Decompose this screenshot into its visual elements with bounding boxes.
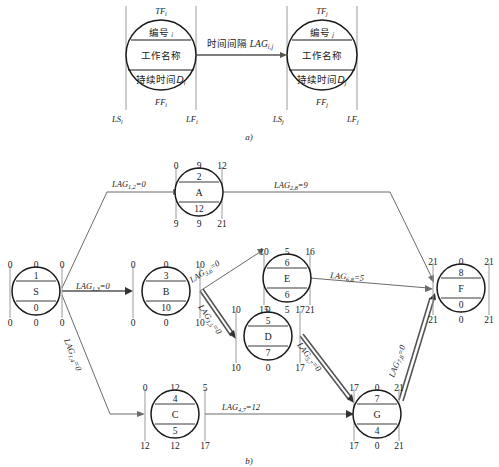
node-S-duration: 0 [34, 303, 39, 313]
schematic-ls-j-label: LSj [272, 114, 284, 125]
lag-label-2-8: LAG2,8=9 [273, 180, 309, 191]
node-E-name: E [284, 273, 290, 284]
network-node-G[interactable]: 17 0 21 7 G 4 17 0 21 [349, 383, 404, 451]
node-A-top-left: 0 [174, 161, 179, 171]
node-G-number: 7 [375, 394, 380, 404]
node-B-top-mid: 0 [164, 260, 169, 270]
panel-b-network: 0 0 0 1 S 0 0 0 0 0 9 12 2 A 12 9 9 21 [8, 161, 494, 466]
node-C-number: 4 [173, 394, 178, 404]
schematic-duration-i: 持续时间Di [136, 74, 185, 86]
node-G-top-right: 21 [394, 383, 404, 393]
lag-label-4-7: LAG4,7=12 [221, 402, 261, 413]
lag-label-1-2: LAG1,2=0 [111, 179, 147, 190]
node-D-bottom-right: 17 [295, 363, 305, 373]
node-S-top-mid: 0 [34, 260, 39, 270]
node-C-bottom-mid: 12 [170, 441, 180, 451]
edge-A-F [222, 192, 432, 278]
network-node-C[interactable]: 0 12 5 4 C 5 12 12 17 [140, 383, 210, 451]
node-A-name: A [195, 187, 203, 198]
node-G-bottom-mid: 0 [375, 441, 380, 451]
node-E-bottom-mid: 5 [285, 305, 290, 315]
node-E-top-right: 16 [305, 247, 315, 257]
node-F-number: 8 [459, 268, 464, 278]
node-B-bottom-left: 0 [131, 318, 136, 328]
node-E-bottom-right: 21 [305, 305, 315, 315]
node-D-number: 5 [266, 316, 271, 326]
node-B-bottom-right: 10 [195, 318, 205, 328]
node-A-number: 2 [197, 172, 202, 182]
node-G-bottom-left: 17 [349, 441, 359, 451]
schematic-lf-i-label: LFi [185, 114, 198, 125]
node-G-bottom-right: 21 [394, 441, 404, 451]
network-node-A[interactable]: 0 9 12 2 A 12 9 9 21 [174, 161, 227, 229]
schematic-workname-j: 工作名称 [302, 50, 342, 61]
node-F-bottom-left: 21 [428, 315, 438, 325]
schematic-ff-i: FFi [154, 97, 167, 108]
node-F-duration: 0 [459, 300, 464, 310]
node-S-name: S [33, 286, 39, 297]
node-D-top-right: 17 [295, 305, 305, 315]
node-A-bottom-right: 21 [217, 219, 227, 229]
edge-E-F [310, 278, 428, 288]
node-A-bottom-mid: 9 [197, 219, 202, 229]
node-E-duration: 6 [285, 290, 290, 300]
node-B-number: 3 [164, 271, 169, 281]
panel-b-caption: b) [245, 456, 253, 466]
figure-canvas: TFi 编号i 工作名称 持续时间Di FFi LSi LFi TFj 编号j … [0, 0, 499, 467]
node-D-bottom-mid: 0 [266, 363, 271, 373]
edge-S-C-arrowhead [137, 411, 145, 417]
node-S-bottom-mid: 0 [34, 318, 39, 328]
network-node-B[interactable]: 0 0 10 3 B 10 0 0 10 [131, 260, 205, 328]
network-node-F[interactable]: 21 0 21 8 F 0 21 0 21 [428, 257, 494, 325]
schematic-ff-j: FFj [315, 97, 328, 108]
node-D-top-left: 10 [231, 305, 241, 315]
node-F-top-right: 21 [484, 257, 494, 267]
node-A-bottom-left: 9 [174, 219, 179, 229]
node-F-name: F [458, 283, 464, 294]
network-edges [62, 189, 436, 418]
network-lag-labels: LAG1,2=0 LAG1,3=0 LAG1,4=0 LAG2,8=9 LAG3… [61, 179, 409, 413]
network-node-D[interactable]: 10 0 17 5 D 7 10 0 17 [231, 305, 305, 373]
node-C-bottom-right: 17 [200, 441, 210, 451]
node-A-top-right: 12 [217, 161, 227, 171]
node-F-bottom-mid: 0 [459, 315, 464, 325]
node-E-top-left: 10 [259, 247, 269, 257]
panel-a-schematic: TFi 编号i 工作名称 持续时间Di FFi LSi LFi TFj 编号j … [111, 6, 359, 142]
schematic-tf-j: TFj [316, 6, 328, 17]
node-G-name: G [373, 409, 380, 420]
node-A-duration: 12 [194, 204, 204, 214]
node-B-duration: 10 [161, 303, 171, 313]
schematic-workname-i: 工作名称 [141, 50, 181, 61]
schematic-lf-j-label: LFj [346, 114, 359, 125]
node-D-top-mid: 0 [266, 305, 271, 315]
schematic-tf-i: TFi [155, 6, 167, 17]
node-A-top-mid: 9 [197, 161, 202, 171]
node-B-name: B [163, 286, 170, 297]
node-D-name: D [264, 331, 271, 342]
node-G-duration: 4 [375, 426, 380, 436]
node-D-bottom-left: 10 [231, 363, 241, 373]
node-G-top-left: 17 [349, 383, 359, 393]
node-G-top-mid: 0 [375, 383, 380, 393]
node-B-bottom-mid: 0 [164, 318, 169, 328]
schematic-ls-i-label: LSi [111, 114, 123, 125]
schematic-connector-arrowhead [280, 52, 287, 58]
node-B-top-left: 0 [131, 260, 136, 270]
node-S-number: 1 [34, 271, 39, 281]
node-S-bottom-right: 0 [60, 318, 65, 328]
node-C-top-left: 0 [143, 383, 148, 393]
edge-E-F-arrowhead [425, 285, 433, 292]
node-F-top-left: 21 [428, 257, 438, 267]
node-C-top-right: 5 [203, 383, 208, 393]
lag-label-1-3: LAG1,3=0 [75, 281, 111, 292]
edge-S-B-arrowhead [125, 287, 133, 295]
node-D-duration: 7 [266, 348, 271, 358]
node-C-bottom-left: 12 [140, 441, 150, 451]
panel-a-caption: a) [245, 132, 253, 142]
node-S-bottom-left: 0 [8, 318, 13, 328]
node-S-top-right: 0 [60, 260, 65, 270]
network-node-S[interactable]: 0 0 0 1 S 0 0 0 0 [8, 260, 65, 328]
node-C-top-mid: 12 [170, 383, 180, 393]
node-E-top-mid: 5 [285, 247, 290, 257]
lag-label-6-8: LAG6,8=5 [329, 270, 365, 284]
